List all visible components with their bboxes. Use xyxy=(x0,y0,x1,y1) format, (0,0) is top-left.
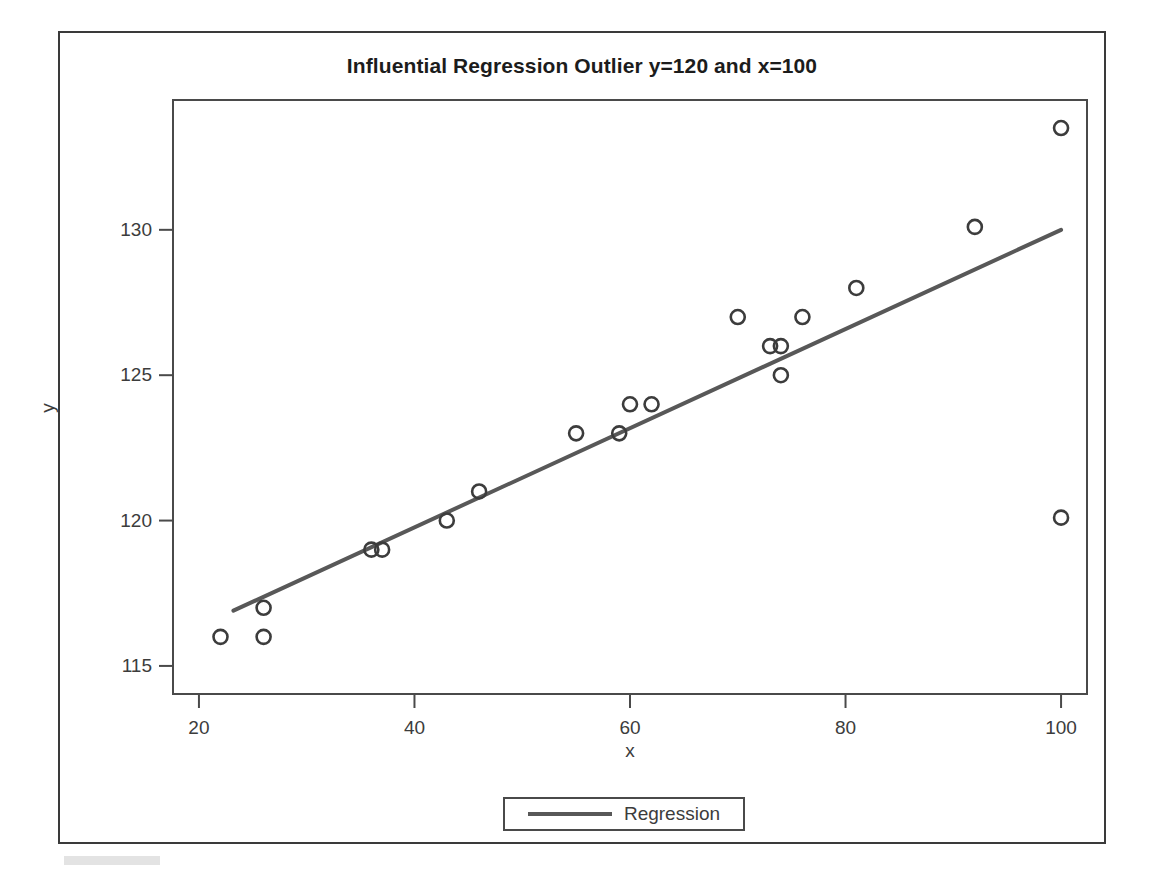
x-tick-label: 100 xyxy=(1045,717,1077,739)
x-tick-label: 60 xyxy=(619,717,640,739)
chart-title: Influential Regression Outlier y=120 and… xyxy=(58,54,1106,78)
figure-root: Influential Regression Outlier y=120 and… xyxy=(0,0,1157,879)
y-tick-label: 115 xyxy=(72,655,152,677)
y-tick-label: 125 xyxy=(72,364,152,386)
x-axis-title: x xyxy=(172,740,1088,762)
legend[interactable]: Regression xyxy=(503,797,745,831)
y-tick-label: 130 xyxy=(72,219,152,241)
x-tick-label: 20 xyxy=(188,717,209,739)
x-tick-label: 80 xyxy=(835,717,856,739)
legend-line-swatch-icon xyxy=(528,812,612,816)
plot-area xyxy=(172,99,1088,695)
x-tick-label: 40 xyxy=(404,717,425,739)
scan-artifact xyxy=(64,856,160,865)
legend-label-regression: Regression xyxy=(624,803,720,825)
y-tick-label: 120 xyxy=(72,510,152,532)
y-axis-title: y xyxy=(37,378,59,438)
